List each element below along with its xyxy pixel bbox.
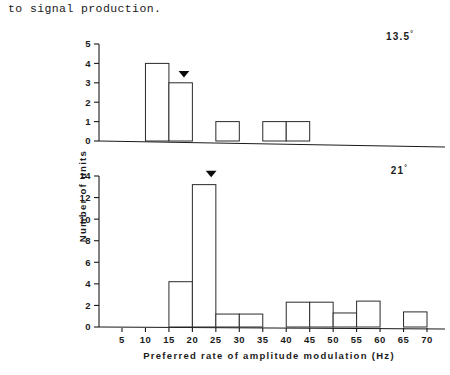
x-tick-label: 55 [351, 334, 363, 345]
panel-upper-y-tick-label: 3 [85, 77, 91, 88]
x-tick-label: 70 [421, 334, 433, 345]
x-tick-label: 60 [374, 334, 386, 345]
panel-upper-bar [145, 63, 168, 141]
panel-lower-y-tick-label: 2 [85, 300, 91, 311]
down-triangle-marker [206, 171, 217, 178]
down-triangle-marker [179, 71, 190, 78]
panel-upper-y-tick-label: 2 [85, 97, 91, 108]
panel-lower-bar [333, 313, 356, 327]
y-axis-title: Number of units [77, 150, 88, 242]
panel-lower-bar [216, 314, 239, 327]
panel-upper-bar [286, 122, 309, 141]
panel-upper-degree-symbol: ° [410, 30, 414, 37]
x-tick-label: 20 [187, 334, 199, 345]
x-axis-title: Preferred rate of amplitude modulation (… [143, 350, 395, 361]
panel-lower-bar [404, 312, 427, 327]
panel-upper-bar [263, 122, 286, 141]
x-tick-label: 30 [234, 334, 246, 345]
panel-upper-x-axis-line [99, 141, 445, 147]
panel-lower-bar [310, 302, 333, 327]
panel-upper-angle-annotation: 13.5° [386, 30, 414, 42]
panel-upper-y-tick-label: 5 [85, 38, 91, 49]
panel-lower-x-axis-line [99, 327, 445, 329]
x-tick-label: 50 [327, 334, 339, 345]
panel-lower-angle-annotation: 21° [391, 164, 408, 176]
panel-lower-y-tick-label: 4 [85, 278, 91, 289]
histogram-figure: 01234513.5°02468101214510152025303540455… [0, 0, 450, 375]
x-tick-label: 25 [210, 334, 222, 345]
panel-lower-degree-symbol: ° [404, 164, 408, 171]
x-tick-label: 45 [304, 334, 316, 345]
x-tick-label: 5 [119, 334, 125, 345]
x-tick-label: 65 [398, 334, 410, 345]
panel-upper-y-tick-label: 1 [85, 116, 91, 127]
panel-lower-y-tick-label: 0 [85, 321, 91, 332]
x-tick-label: 15 [163, 334, 175, 345]
panel-lower-bar [192, 185, 215, 327]
panel-lower-y-tick-label: 6 [85, 257, 91, 268]
panel-upper-y-tick-label: 0 [85, 135, 91, 146]
panel-upper-bar [216, 122, 239, 141]
panel-lower-bar [286, 302, 309, 327]
x-tick-label: 40 [280, 334, 292, 345]
panel-lower-bar [169, 282, 192, 327]
panel-upper-y-tick-label: 4 [85, 58, 91, 69]
x-tick-label: 35 [257, 334, 269, 345]
panel-lower-bar [239, 314, 262, 327]
panel-lower-bar [357, 301, 380, 327]
panel-upper-bar [169, 83, 192, 141]
x-tick-label: 10 [140, 334, 152, 345]
figure-container: 01234513.5°02468101214510152025303540455… [0, 0, 450, 375]
